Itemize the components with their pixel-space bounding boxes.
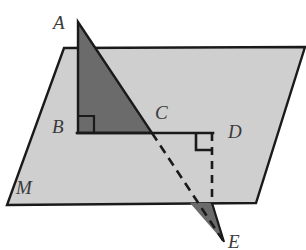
- vertex-label-c: C: [155, 103, 168, 122]
- vertex-label-a: A: [53, 13, 65, 32]
- vertex-label-e: E: [228, 232, 240, 250]
- geometry-canvas: [0, 0, 306, 250]
- plane-label-m: M: [16, 178, 32, 197]
- vertex-label-b: B: [52, 117, 64, 136]
- geometry-figure: A B C D E M: [0, 0, 306, 250]
- vertex-label-d: D: [228, 122, 242, 141]
